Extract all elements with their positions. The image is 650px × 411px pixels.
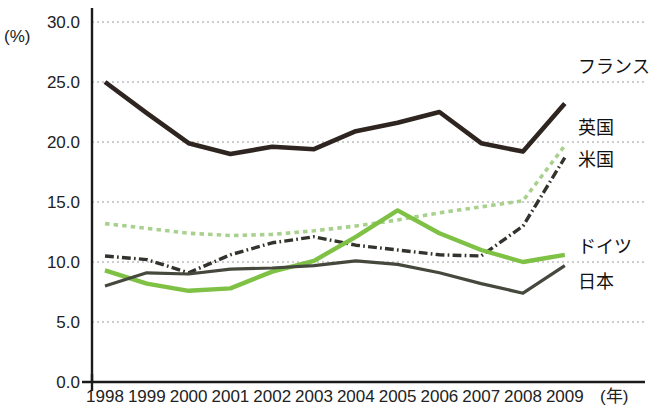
x-tick-label-1999: 1999 [128,387,166,406]
x-tick-label-2003: 2003 [295,387,333,406]
x-tick-label-2006: 2006 [420,387,458,406]
y-tick-label-10.0: 10.0 [47,253,80,272]
chart-container: 0.05.010.015.020.025.030.0 1998199920002… [0,0,650,411]
series-line-3 [105,210,565,290]
axis-lines [82,8,645,391]
y-tick-label-30.0: 30.0 [47,13,80,32]
x-tick-label-2005: 2005 [379,387,417,406]
x-axis-tick-labels: 1998199920002001200220032004200520062007… [86,387,584,406]
y-tick-label-20.0: 20.0 [47,133,80,152]
series-line-1 [105,146,565,236]
x-tick-label-2008: 2008 [504,387,542,406]
gridlines [92,22,645,322]
x-tick-label-2000: 2000 [170,387,208,406]
x-tick-label-2007: 2007 [462,387,500,406]
y-tick-label-25.0: 25.0 [47,73,80,92]
legend: フランス英国米国ドイツ日本 [578,57,650,292]
x-axis-unit-label: (年) [600,387,628,406]
y-tick-label-5.0: 5.0 [56,313,80,332]
y-axis-tick-labels: 0.05.010.015.020.025.030.0 [47,13,80,392]
series-line-0 [105,82,565,154]
x-tick-label-2002: 2002 [253,387,291,406]
legend-label-4: 日本 [578,272,614,292]
x-tick-label-2009: 2009 [546,387,584,406]
legend-label-0: フランス [578,57,650,77]
y-tick-label-0.0: 0.0 [56,373,80,392]
legend-label-2: 米国 [578,150,614,170]
y-tick-label-15.0: 15.0 [47,193,80,212]
line-chart: 0.05.010.015.020.025.030.0 1998199920002… [0,0,650,411]
legend-label-3: ドイツ [578,237,632,257]
x-tick-label-2004: 2004 [337,387,375,406]
y-axis-unit-label: (%) [4,27,30,46]
legend-label-1: 英国 [578,118,614,138]
x-tick-label-2001: 2001 [211,387,249,406]
